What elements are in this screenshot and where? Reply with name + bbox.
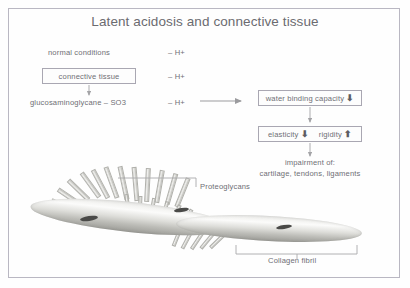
callout-collagen-fibril: Collagen fibril — [268, 256, 316, 265]
callout-proteoglycans: Proteoglycans — [200, 182, 250, 191]
down-arrow-icon: ⬇ — [301, 130, 309, 139]
box-elasticity-label: elasticity — [268, 130, 299, 139]
box-rigidity-label: rigidity — [319, 130, 342, 139]
box-water-binding-capacity: water binding capacity ⬇ — [258, 90, 362, 106]
slide-canvas: Latent acidosis and connective tissue no… — [0, 0, 410, 288]
box-water-label: water binding capacity — [266, 94, 344, 103]
label-normal-conditions: normal conditions — [48, 48, 110, 57]
page-title: Latent acidosis and connective tissue — [0, 14, 410, 29]
box-connective-tissue: connective tissue — [42, 68, 136, 84]
box-elasticity-rigidity: elasticity ⬇ rigidity ⬆ — [258, 126, 362, 142]
down-arrow-icon: ⬇ — [346, 94, 354, 103]
label-glucosaminoglycane: glucosaminoglycane – SO3 — [30, 98, 126, 107]
outcome-heading: impairment of: — [250, 158, 370, 167]
up-arrow-icon: ⬆ — [344, 130, 352, 139]
proton-label-row3: – H+ — [168, 98, 185, 107]
proton-label-row1: – H+ — [168, 48, 185, 57]
proton-label-row2: – H+ — [168, 72, 185, 81]
